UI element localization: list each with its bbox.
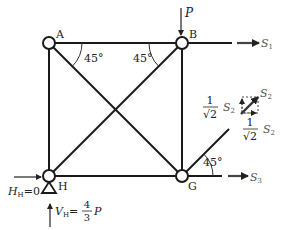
svg-text:VH=: VH=: [55, 205, 78, 219]
node-A: [43, 37, 55, 49]
component-vertical-label: 1 √2 S2: [203, 94, 235, 121]
svg-text:1: 1: [247, 116, 254, 129]
svg-text:1: 1: [207, 94, 214, 107]
svg-text:√2: √2: [243, 130, 257, 143]
svg-text:3: 3: [84, 212, 90, 223]
angle-label-A: 45°: [84, 52, 104, 65]
angle-label-B: 45°: [133, 52, 153, 65]
force-S3-label: S3: [250, 171, 262, 185]
svg-text:4: 4: [84, 199, 90, 210]
node-label-B: B: [189, 28, 197, 41]
node-B: [176, 37, 188, 49]
svg-text:P: P: [93, 205, 102, 218]
angle-arc-A: [72, 43, 82, 66]
pin-support-H: [42, 182, 56, 193]
force-S2-arrow: [241, 97, 258, 114]
force-S2-decomposition: [241, 97, 258, 114]
truss-svg: 45° 45° 45° A B H G P S1 S3: [0, 0, 282, 230]
reaction-VH-label: VH= 4 3 P: [55, 199, 102, 223]
node-label-G: G: [188, 180, 197, 193]
component-horizontal-label: 1 √2 S2: [243, 116, 275, 143]
reaction-HH-label: HH=0: [7, 185, 40, 199]
force-S1-label: S1: [261, 37, 273, 51]
svg-text:√2: √2: [203, 108, 217, 121]
node-H: [43, 170, 55, 182]
force-S2-label: S2: [260, 87, 272, 101]
truss-diagram: 45° 45° 45° A B H G P S1 S3: [0, 0, 282, 230]
node-G: [176, 170, 188, 182]
node-label-A: A: [55, 28, 65, 41]
angle-label-G: 45°: [203, 156, 223, 169]
svg-text:S2: S2: [223, 101, 235, 115]
load-P-label: P: [184, 6, 194, 20]
node-label-H: H: [58, 180, 68, 193]
svg-text:S2: S2: [263, 123, 275, 137]
